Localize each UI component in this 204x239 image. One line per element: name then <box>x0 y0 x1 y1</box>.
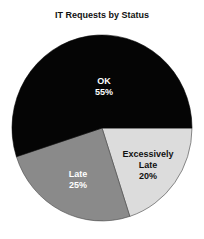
pie-chart: OK 55% Late 25% Excessively Late 20% <box>0 0 204 239</box>
label-ok-name: OK <box>97 76 111 86</box>
label-exc-line2: Late <box>139 160 158 170</box>
label-late-name: Late <box>69 169 88 179</box>
label-exc-line1: Excessively <box>122 149 173 159</box>
label-exc-pct: 20% <box>139 171 157 181</box>
label-late-pct: 25% <box>69 180 87 190</box>
label-ok-pct: 55% <box>95 87 113 97</box>
